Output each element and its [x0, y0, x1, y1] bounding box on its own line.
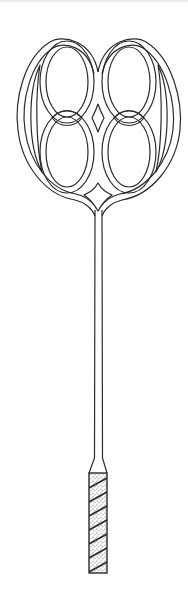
- stem-left-line: [89, 210, 95, 473]
- left-lower-oval-inner: [46, 117, 88, 187]
- beater-handle: [89, 473, 107, 573]
- carpet-beater-drawing: [0, 0, 188, 589]
- handle-sleeve: [89, 473, 107, 573]
- beater-head: [17, 39, 180, 216]
- center-diamond: [92, 104, 104, 132]
- right-lobe-outer-inner: [102, 45, 174, 205]
- stem-right-line: [102, 210, 107, 473]
- illustration-canvas: Carpet beater: [0, 0, 188, 589]
- beater-stem: [89, 210, 107, 473]
- left-upper-oval-inner: [46, 47, 88, 117]
- right-upper-oval-inner: [108, 47, 150, 117]
- right-lower-oval-inner: [108, 117, 150, 187]
- left-lobe-outer-inner: [24, 45, 94, 205]
